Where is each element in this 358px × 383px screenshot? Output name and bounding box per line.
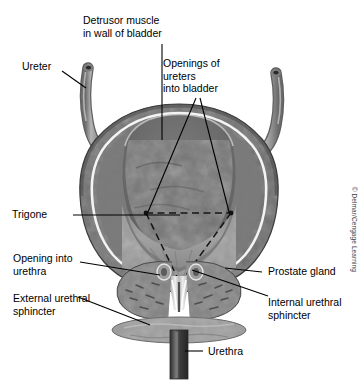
- label-trigone: Trigone: [12, 208, 47, 221]
- label-detrusor-muscle: Detrusor muscle in wall of bladder: [83, 14, 162, 39]
- label-prostate-gland: Prostate gland: [268, 265, 336, 278]
- prostatic-utricle-right: [189, 264, 203, 280]
- label-ureter: Ureter: [22, 60, 51, 73]
- label-internal-urethral-sphincter: Internal urethral sphincter: [268, 296, 342, 321]
- label-openings-of-ureters: Openings of ureters into bladder: [163, 57, 220, 95]
- bladder-cavity: [120, 115, 240, 290]
- ureter-left-lumen: [86, 66, 91, 70]
- label-opening-into-urethra: Opening into urethra: [13, 252, 73, 277]
- label-urethra: Urethra: [208, 345, 243, 358]
- urethra: [170, 330, 188, 379]
- ureter-right-lumen: [273, 71, 278, 75]
- copyright-notice: © Delmar/Cengage Learning: [351, 187, 358, 272]
- label-external-urethral-sphincter: External urethral sphincter: [13, 292, 90, 317]
- opening-into-urethra: [157, 264, 171, 280]
